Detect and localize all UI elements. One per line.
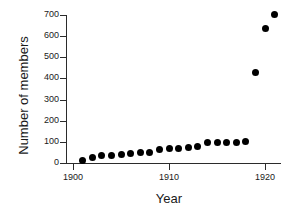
- y-tick: [60, 78, 66, 79]
- y-tick: [60, 100, 66, 101]
- y-tick-label: 300: [27, 95, 59, 104]
- data-point: [214, 139, 221, 146]
- data-point: [194, 143, 201, 150]
- y-axis-title: Number of members: [16, 21, 31, 171]
- y-tick: [60, 163, 66, 164]
- data-point: [137, 149, 144, 156]
- y-tick-label: 200: [27, 116, 59, 125]
- y-tick-label: 600: [27, 31, 59, 40]
- data-point: [156, 146, 163, 153]
- y-tick-label: 500: [27, 52, 59, 61]
- x-axis-line: [66, 163, 281, 164]
- data-point: [175, 145, 182, 152]
- scatter-chart: 0100200300400500600700 190019101920 Numb…: [0, 0, 297, 213]
- data-point: [233, 139, 240, 146]
- y-tick: [60, 15, 66, 16]
- x-tick: [265, 164, 266, 170]
- y-tick: [60, 142, 66, 143]
- data-point: [185, 144, 192, 151]
- data-point: [146, 149, 153, 156]
- x-axis-title: Year: [73, 191, 265, 206]
- data-point: [204, 139, 211, 146]
- data-point: [252, 69, 259, 76]
- y-tick: [60, 57, 66, 58]
- y-tick: [60, 121, 66, 122]
- data-point: [223, 139, 230, 146]
- data-point: [118, 151, 125, 158]
- y-tick-label: 700: [27, 10, 59, 19]
- x-tick-label: 1910: [149, 172, 189, 182]
- y-axis-line: [66, 15, 67, 164]
- data-point: [262, 25, 269, 32]
- x-tick-label: 1920: [245, 172, 285, 182]
- data-point: [108, 152, 115, 159]
- x-tick-label: 1900: [53, 172, 93, 182]
- data-point: [98, 152, 105, 159]
- data-point: [271, 11, 278, 18]
- x-tick: [169, 164, 170, 170]
- data-point: [166, 145, 173, 152]
- data-point: [242, 138, 249, 145]
- y-tick: [60, 36, 66, 37]
- y-tick-label: 0: [27, 158, 59, 167]
- x-tick: [73, 164, 74, 170]
- y-tick-label: 100: [27, 137, 59, 146]
- y-tick-label: 400: [27, 73, 59, 82]
- data-point: [79, 157, 86, 164]
- data-point: [127, 150, 134, 157]
- data-point: [89, 154, 96, 161]
